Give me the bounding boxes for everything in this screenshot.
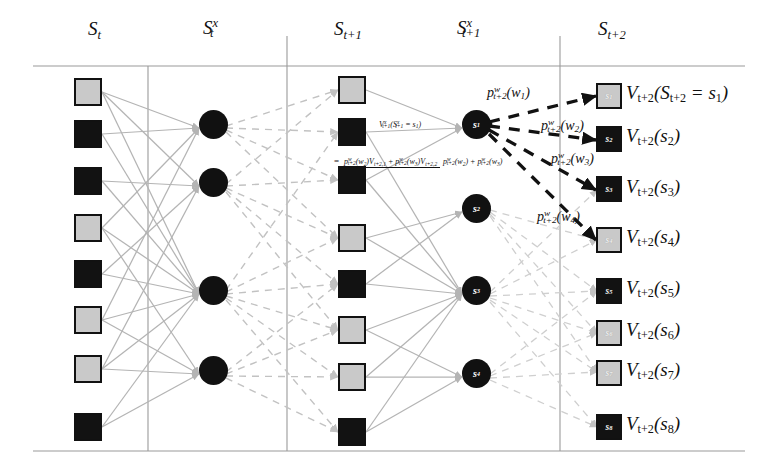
state-square-st1-3 <box>338 166 366 194</box>
state-tag-s5: s5 <box>598 280 620 302</box>
state-square-st-4 <box>74 214 102 242</box>
equals-sign: = <box>334 156 341 166</box>
prob-label-w4: pwt+2(w4) <box>537 208 580 225</box>
state-square-st2-6: s6 <box>596 320 622 346</box>
value-label-st2-5: Vt+2(s5) <box>626 277 680 301</box>
value-label-st2-1: Vt+2(St+2 = s1) <box>626 82 728 106</box>
column-header-stx: Sxt <box>203 16 214 41</box>
value-label-st2-6: Vt+2(s6) <box>626 319 680 343</box>
edges-stx-to-st1 <box>226 90 338 432</box>
state-square-st2-8: s8 <box>596 414 622 440</box>
post-decision-node-st1x-2: s2 <box>462 194 491 223</box>
state-square-st1-2 <box>338 118 366 146</box>
prob-label-w1: pwt+2(w1) <box>487 84 530 101</box>
state-square-st-7 <box>74 355 102 383</box>
column-header-st1x: Sxt+1 <box>457 16 480 41</box>
state-tag-s7: s7 <box>598 362 620 384</box>
state-square-st-5 <box>74 260 102 288</box>
node-label-s1: s1 <box>462 110 491 139</box>
state-square-st2-4: s4 <box>596 227 622 253</box>
fraction-numerator: pwt+2(w2)Vt+2,1 + pwt+2(w3)Vt+2,2 <box>341 157 440 168</box>
state-square-st-2 <box>74 120 102 148</box>
state-square-st1-6 <box>338 316 366 344</box>
value-expression-fraction: =pwt+2(w2)Vt+2,1 + pwt+2(w3)Vt+2,2pwt+2(… <box>334 156 505 166</box>
value-label-st2-7: Vt+2(s7) <box>626 359 680 383</box>
prob-label-w2: pwt+2(w2) <box>541 117 584 134</box>
value-label-st2-8: Vt+2(s8) <box>626 413 680 437</box>
post-decision-node-st1x-3: s3 <box>462 276 491 305</box>
state-square-st-3 <box>74 167 102 195</box>
column-header-st: St <box>88 18 101 43</box>
state-square-st-8 <box>74 413 102 441</box>
state-square-st2-2: s2 <box>596 126 622 152</box>
node-label-s2: s2 <box>462 194 491 223</box>
value-label-st2-4: Vt+2(s4) <box>626 226 680 250</box>
state-square-st1-8 <box>338 418 366 446</box>
edges-st-to-stx <box>102 92 199 427</box>
value-label-st2-2: Vt+2(s2) <box>626 125 680 149</box>
fraction-denominator: pwt+2(w2) + pwt+2(w3) <box>440 156 505 166</box>
state-square-st1-4 <box>338 224 366 252</box>
value-label-st2-3: Vt+2(s3) <box>626 176 680 200</box>
state-square-st2-3: s3 <box>596 176 622 202</box>
figure-canvas: St Sxt St+1 Sxt+1 St+2 s1 s2 s3 s4 s1 Vt… <box>0 0 772 473</box>
post-decision-node-stx-3 <box>199 276 228 305</box>
state-tag-s4: s4 <box>598 229 620 251</box>
column-header-st1: St+1 <box>334 18 362 43</box>
node-label-s3: s3 <box>462 276 491 305</box>
state-square-st1-1 <box>338 76 366 104</box>
state-square-st1-7 <box>338 363 366 391</box>
state-square-st-1 <box>74 78 102 106</box>
state-square-st2-7: s7 <box>596 360 622 386</box>
post-decision-node-stx-2 <box>199 168 228 197</box>
state-square-st2-5: s5 <box>596 278 622 304</box>
post-decision-node-stx-4 <box>199 356 228 385</box>
value-expression-lhs: Vxt+1(Sxt+1 = s1) <box>379 119 421 129</box>
post-decision-node-stx-1 <box>199 110 228 139</box>
state-tag-s3: s3 <box>598 178 620 200</box>
state-tag-s1: s1 <box>598 85 620 107</box>
post-decision-node-st1x-4: s4 <box>462 359 491 388</box>
prob-label-w3: pwt+2(w3) <box>551 150 594 167</box>
state-tag-s6: s6 <box>598 322 620 344</box>
post-decision-node-st1x-1: s1 <box>462 110 491 139</box>
state-square-st1-5 <box>338 270 366 298</box>
column-header-st2: St+2 <box>598 18 626 43</box>
state-tag-s8: s8 <box>598 416 620 438</box>
fraction-stack: pwt+2(w2)Vt+2,1 + pwt+2(w3)Vt+2,2pwt+2(w… <box>341 156 505 166</box>
edges-st1-to-st1x <box>366 90 462 432</box>
state-square-st2-1: s1 <box>596 83 622 109</box>
state-tag-s2: s2 <box>598 128 620 150</box>
state-square-st-6 <box>74 306 102 334</box>
node-label-s4: s4 <box>462 359 491 388</box>
